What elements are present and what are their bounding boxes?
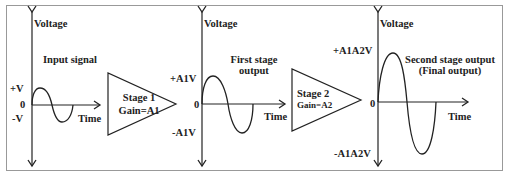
time-axis-label: Time: [448, 112, 471, 123]
diagram-graphics: [0, 0, 506, 177]
panel-title-line2: (Final output): [400, 66, 500, 77]
positive-peak-label: +A1V: [170, 74, 196, 85]
voltage-axis-label: Voltage: [204, 19, 237, 30]
frame-border: [7, 6, 503, 171]
panel-title-line2: output: [218, 66, 290, 77]
stage-2-name: Stage 2: [297, 89, 329, 100]
panel-title: Second stage output: [400, 55, 500, 66]
stage-1-amplifier: [108, 73, 176, 135]
negative-peak-label: -A1A2V: [334, 149, 371, 160]
time-axis-label: Time: [78, 114, 101, 125]
negative-peak-label: -V: [12, 114, 23, 125]
panel-title: First stage: [218, 55, 290, 66]
zero-label: 0: [20, 100, 25, 111]
time-axis-label: Time: [264, 112, 287, 123]
voltage-axis-label: Voltage: [34, 19, 67, 30]
negative-peak-label: -A1V: [172, 128, 196, 139]
stage-1-gain: Gain=A1: [110, 106, 168, 117]
positive-peak-label: +V: [10, 84, 24, 95]
stage-1-name: Stage 1: [114, 93, 164, 104]
stage-2-gain: Gain=A2: [297, 101, 332, 110]
zero-label: 0: [194, 100, 199, 111]
amplifier-diagram: Voltage Input signal +V 0 -V Time Stage …: [0, 0, 506, 177]
input-signal-plot: [32, 12, 100, 166]
zero-label: 0: [370, 99, 375, 110]
voltage-axis-label: Voltage: [380, 19, 413, 30]
second-stage-plot: [378, 12, 468, 166]
panel-title: Input signal: [43, 55, 97, 66]
first-stage-plot: [202, 12, 285, 166]
positive-peak-label: +A1A2V: [333, 46, 372, 57]
